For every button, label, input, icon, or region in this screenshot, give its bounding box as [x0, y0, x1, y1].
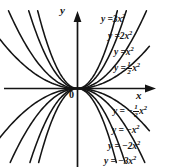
eq-exponent: 2 [133, 154, 136, 161]
parabola-curve [0, 89, 77, 163]
eq-text: y = − [112, 125, 132, 135]
y-axis-label: y [60, 5, 65, 16]
curve-label-3x2: y =3x2 [101, 13, 125, 25]
eq-exponent: 2 [144, 104, 147, 111]
curve-label-neg-2x2: y = −2x2 [108, 140, 140, 152]
fraction-one-half: 12 [133, 104, 138, 120]
parabola-curve [29, 11, 78, 89]
parabola-family-figure: y x 0 y =3x2 y =2x2 y =x2 y =12x2 y = −1… [0, 0, 180, 167]
eq-exponent: 2 [137, 61, 140, 68]
fraction-one-half: 12 [126, 61, 131, 77]
curve-label-half-x2: y =12x2 [114, 61, 140, 77]
eq-text: y = − [104, 156, 124, 166]
parabola-curve [0, 11, 77, 89]
coordinate-plot [0, 0, 180, 167]
eq-text: y = − [113, 106, 133, 116]
eq-text: y = − [108, 141, 128, 151]
curve-label-x2: y =x2 [114, 46, 134, 58]
curve-label-2x2: y =2x2 [108, 30, 132, 42]
eq-text: y = [114, 47, 126, 57]
eq-text: y = [108, 31, 120, 41]
eq-text: y = [114, 63, 126, 73]
eq-exponent: 2 [122, 12, 125, 19]
eq-exponent: 2 [129, 29, 132, 36]
x-axis-label: x [136, 90, 141, 101]
x-axis [4, 85, 156, 93]
curve-label-neg-3x2: y = −3x2 [104, 155, 136, 167]
curve-label-neg-half-x2: y = −12x2 [113, 104, 147, 120]
fraction-denominator: 2 [126, 68, 131, 76]
fraction-numerator: 1 [133, 104, 138, 111]
eq-exponent: 2 [136, 123, 139, 130]
fraction-numerator: 1 [126, 61, 131, 68]
eq-exponent: 2 [130, 45, 133, 52]
curve-label-neg-x2: y = −x2 [112, 124, 139, 136]
eq-text: y = [101, 14, 113, 24]
eq-exponent: 2 [137, 139, 140, 146]
origin-label: 0 [69, 90, 74, 100]
fraction-denominator: 2 [133, 111, 138, 119]
